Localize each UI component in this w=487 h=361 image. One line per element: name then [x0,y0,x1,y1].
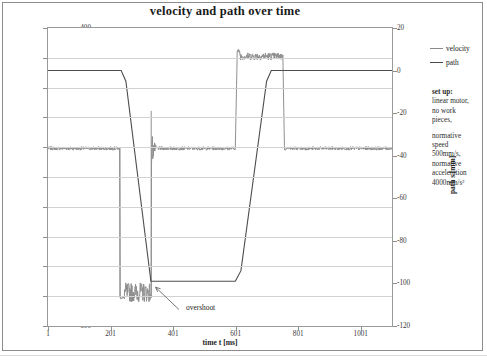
setup-line-6: 500mm/s, [432,150,461,158]
grid-line-horizontal [48,266,392,267]
setup-line-1: linear motor, [432,97,469,105]
y2-tick-label: -20 [397,109,431,117]
grid-line-horizontal [48,58,392,59]
grid-line-horizontal [48,117,392,118]
grid-line-horizontal [48,177,392,178]
x-tick-label: 801 [278,330,318,338]
x-tick-label: 401 [153,330,193,338]
setup-line-7: normative [432,160,461,168]
y2-tick-mark [393,113,397,114]
x-tick-mark [298,327,299,331]
legend-line-swatch-path [430,62,443,63]
figure-container: velocity and path over time velocity v [… [0,0,487,361]
grid-line-horizontal [48,237,392,238]
x-tick-label: 601 [216,330,256,338]
y2-tick-mark [393,241,397,242]
overshoot-annotation-label: overshoot [186,303,215,312]
legend-item-velocity: velocity [430,44,470,53]
setup-line-5: speed [432,141,448,149]
y2-tick-mark [393,28,397,29]
y2-tick-mark [393,326,397,327]
y2-tick-label: 0 [397,67,431,75]
setup-heading: set up: [432,88,453,96]
grid-line-horizontal [48,147,392,148]
x-tick-label: 1001 [341,330,381,338]
grid-line-horizontal [48,88,392,89]
x-tick-mark [236,327,237,331]
x-tick-mark [361,327,362,331]
y2-tick-label: -60 [397,194,431,202]
y2-tick-mark [393,156,397,157]
plot-area [47,27,393,327]
legend-label-velocity: velocity [446,44,470,53]
x-tick-mark [111,327,112,331]
page-edge-line [0,355,487,356]
x-tick-label: 201 [91,330,131,338]
y2-tick-label: 20 [397,24,431,32]
setup-line-2: no work [432,107,456,115]
setup-line-8: acceleration [432,169,467,177]
y2-tick-mark [393,283,397,284]
legend-label-path: path [446,58,459,67]
setup-line-4: normative [432,132,461,140]
y2-tick-label: -120 [397,322,431,330]
y2-tick-mark [393,71,397,72]
x-axis-label: time t [ms] [47,338,393,347]
setup-note: set up: linear motor, no work pieces, no… [432,88,484,188]
y2-tick-label: -40 [397,152,431,160]
x-tick-mark [48,327,49,331]
x-tick-label: 1 [28,330,68,338]
setup-line-9: 4000mm/s² [432,179,465,187]
chart-legend: velocity path [430,44,470,72]
y2-tick-mark [393,198,397,199]
grid-line-horizontal [48,207,392,208]
y2-tick-label: -80 [397,237,431,245]
chart-title: velocity and path over time [60,4,390,19]
y2-tick-label: -100 [397,279,431,287]
setup-line-3: pieces, [432,116,452,124]
path-curve [48,71,392,282]
x-tick-mark [173,327,174,331]
grid-line-horizontal [48,296,392,297]
legend-line-swatch-velocity [430,48,443,49]
legend-item-path: path [430,58,470,67]
